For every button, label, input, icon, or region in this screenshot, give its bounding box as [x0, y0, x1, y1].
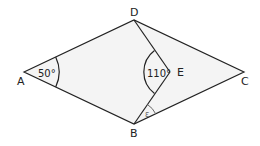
angle-label-a: 50°: [38, 68, 56, 79]
point-label-d: D: [130, 6, 138, 19]
point-label-e: E: [177, 66, 184, 79]
rhombus-abcd: [24, 20, 244, 124]
point-label-c: C: [241, 75, 249, 88]
point-label-b: B: [130, 127, 138, 140]
point-label-a: A: [17, 75, 25, 88]
rhombus-diagram: 50° 110° ε A D C B E: [0, 0, 260, 146]
angle-label-e: 110°: [147, 68, 171, 79]
angle-label-b: ε: [145, 110, 149, 119]
